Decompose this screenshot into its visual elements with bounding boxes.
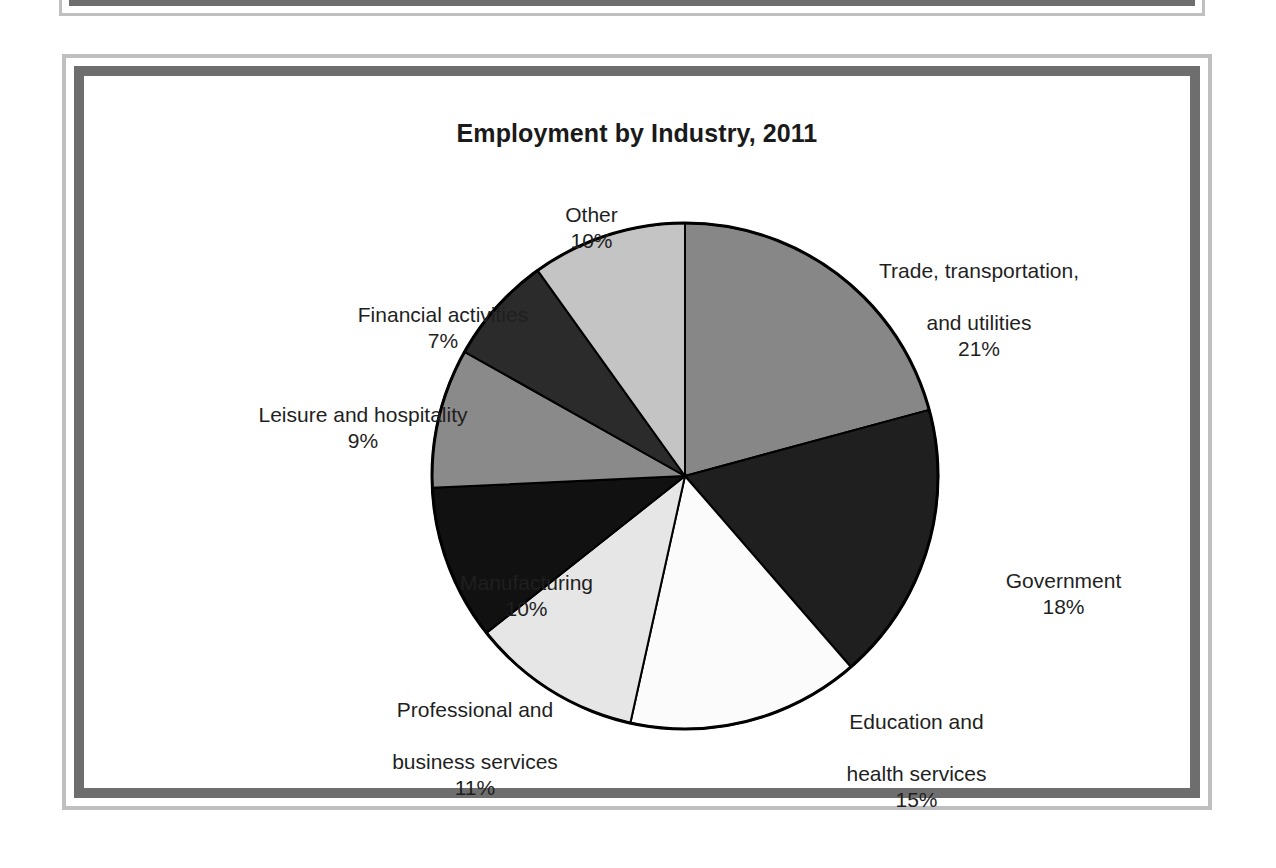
slice-label-other: Other 10% [509, 176, 674, 280]
slice-label-government: Government 18% [956, 542, 1171, 646]
slice-label-leisure: Leisure and hospitality 9% [229, 376, 497, 480]
slice-label-manufacturing-line1: Manufacturing [460, 571, 593, 594]
slice-value-leisure: 9% [229, 428, 497, 454]
chart-title: Employment by Industry, 2011 [84, 119, 1190, 148]
slice-label-government-line1: Government [1006, 569, 1122, 592]
slice-label-professional-line2: business services [392, 750, 558, 773]
figure-frame: Employment by Industry, 2011 Trade, tran… [62, 54, 1212, 810]
figure-inner-border: Employment by Industry, 2011 Trade, tran… [74, 66, 1200, 798]
slice-label-other-line1: Other [565, 203, 618, 226]
top-frame-fragment-inner-border [69, 0, 1195, 6]
slice-label-professional-line1: Professional and [397, 698, 553, 721]
slice-label-financial-line1: Financial activities [358, 303, 528, 326]
slice-label-financial: Financial activities 7% [318, 276, 568, 380]
chart-canvas: Employment by Industry, 2011 Trade, tran… [84, 76, 1190, 788]
slice-label-trade-line1: Trade, transportation, [879, 259, 1079, 282]
slice-label-trade: Trade, transportation, and utilities 21% [854, 232, 1104, 388]
slice-label-education-line2: health services [846, 762, 986, 785]
slice-value-other: 10% [509, 228, 674, 254]
slice-value-professional: 11% [350, 775, 600, 801]
slice-label-leisure-line1: Leisure and hospitality [259, 403, 468, 426]
slice-label-professional: Professional and business services 11% [350, 671, 600, 827]
slice-label-education: Education and health services 15% [794, 683, 1039, 839]
slice-value-trade: 21% [854, 336, 1104, 362]
top-frame-fragment [59, 0, 1205, 16]
slice-label-education-line1: Education and [849, 710, 983, 733]
slice-value-education: 15% [794, 787, 1039, 813]
slice-value-manufacturing: 10% [424, 596, 629, 622]
slice-label-manufacturing: Manufacturing 10% [424, 544, 629, 648]
slice-label-trade-line2: and utilities [926, 311, 1031, 334]
slice-value-financial: 7% [318, 328, 568, 354]
slice-value-government: 18% [956, 594, 1171, 620]
